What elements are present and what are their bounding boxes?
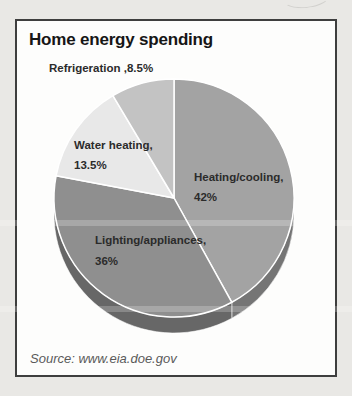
label-water-heating-value: 13.5% <box>74 155 153 175</box>
page-background: { "card": { "title": "Home energy spendi… <box>0 0 352 396</box>
scan-artifact-corner <box>281 0 331 10</box>
label-water-heating-name: Water heating, <box>74 135 153 155</box>
label-lighting-appliances-value: 36% <box>95 251 206 272</box>
source-citation: Source: www.eia.doe.gov <box>30 351 177 366</box>
label-lighting-appliances: Lighting/appliances, 36% <box>95 230 206 272</box>
label-water-heating: Water heating, 13.5% <box>74 135 153 175</box>
pie-chart <box>17 21 339 379</box>
label-heating-cooling-name: Heating/cooling, <box>194 167 283 187</box>
chart-card: Home energy spending Refrigeration ,8.5%… <box>15 19 337 377</box>
label-lighting-appliances-name: Lighting/appliances, <box>95 230 206 251</box>
label-refrigeration-line: Refrigeration ,8.5% <box>49 62 153 74</box>
label-heating-cooling: Heating/cooling, 42% <box>194 167 283 207</box>
label-heating-cooling-value: 42% <box>194 187 283 207</box>
label-refrigeration: Refrigeration ,8.5% <box>49 62 153 74</box>
